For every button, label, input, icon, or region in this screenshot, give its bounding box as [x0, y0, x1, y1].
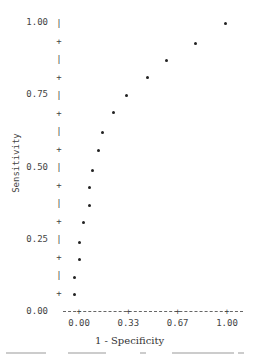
y-tick-mark: |: [55, 199, 63, 208]
y-tick-mark: |: [55, 55, 63, 64]
y-tick-mark: |: [55, 163, 63, 172]
x-tick-mark: +: [223, 308, 231, 316]
x-tick-mark: +: [174, 308, 182, 316]
data-point: [82, 221, 85, 224]
data-point: [101, 131, 104, 134]
y-tick-mark: +: [55, 109, 63, 118]
y-tick-label: 1.00: [8, 17, 48, 27]
y-tick-mark: +: [55, 289, 63, 298]
data-point: [88, 204, 91, 207]
y-tick-label: 0.25: [8, 234, 48, 244]
data-point: [73, 276, 76, 279]
x-tick-label: 0.00: [64, 318, 94, 328]
y-tick-mark: +: [55, 73, 63, 82]
y-tick-mark: +: [55, 181, 63, 190]
x-axis-title: 1 - Specificity: [0, 335, 259, 346]
y-tick-label: 0.00: [8, 306, 48, 316]
x-tick-mark: +: [124, 308, 132, 316]
data-point: [78, 258, 81, 261]
x-tick-label: 1.00: [212, 318, 242, 328]
x-tick-label: 0.67: [163, 318, 193, 328]
y-tick-mark: +: [55, 37, 63, 46]
data-point: [97, 149, 100, 152]
y-tick-mark: +: [55, 217, 63, 226]
data-point: [112, 111, 115, 114]
x-tick-label: 0.33: [113, 318, 143, 328]
data-point: [146, 76, 149, 79]
data-point: [78, 241, 81, 244]
x-axis-line: [63, 311, 243, 312]
data-point: [73, 293, 76, 296]
roc-chart: Sensitivity 0.00+|+|0.25+|+|0.50+|+|0.75…: [0, 0, 259, 357]
x-tick-mark: +: [75, 308, 83, 316]
data-point: [165, 59, 168, 62]
y-tick-label: 0.50: [8, 162, 48, 172]
y-tick-mark: |: [55, 235, 63, 244]
data-point: [88, 186, 91, 189]
data-point: [125, 94, 128, 97]
data-point: [194, 42, 197, 45]
data-point: [224, 22, 227, 25]
data-point: [91, 169, 94, 172]
y-tick-mark: |: [55, 127, 63, 136]
y-tick-mark: |: [55, 271, 63, 280]
y-tick-mark: +: [55, 145, 63, 154]
y-tick-mark: |: [55, 19, 63, 28]
y-tick-mark: +: [55, 253, 63, 262]
clipped-caption: [0, 352, 259, 357]
y-tick-mark: |: [55, 91, 63, 100]
y-tick-label: 0.75: [8, 89, 48, 99]
